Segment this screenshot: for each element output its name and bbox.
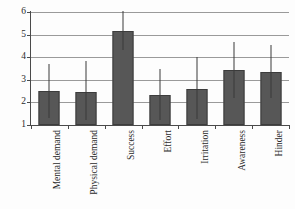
x-tick xyxy=(215,125,216,129)
x-tick xyxy=(105,125,106,129)
y-tick-label-2: 2 xyxy=(14,97,26,107)
error-bar xyxy=(233,42,234,98)
x-tick xyxy=(68,125,69,129)
x-tick xyxy=(142,125,143,129)
x-tick xyxy=(31,125,32,129)
error-bar xyxy=(270,45,271,99)
x-axis-line xyxy=(30,125,289,126)
y-tick-label-4: 4 xyxy=(14,52,26,62)
error-bar xyxy=(123,11,124,51)
y-tick-label-6: 6 xyxy=(14,7,26,17)
y-tick-label-1: 1 xyxy=(14,120,26,130)
error-bar xyxy=(159,69,160,120)
category-label: Awareness xyxy=(238,130,248,171)
category-label: Hinder xyxy=(275,130,285,156)
bar-slot xyxy=(215,12,252,125)
bar-slot xyxy=(68,12,105,125)
bar-slot xyxy=(178,12,215,125)
bar-chart-figure: 123456 Mental demandPhysical demandSucce… xyxy=(0,0,295,209)
error-bar xyxy=(86,61,87,121)
bar-slot xyxy=(31,12,68,125)
category-label: Success xyxy=(127,130,137,160)
x-tick xyxy=(178,125,179,129)
bar-slot xyxy=(105,12,142,125)
category-label: Effort xyxy=(164,130,174,153)
category-label: Mental demand xyxy=(53,130,63,189)
error-bar xyxy=(196,57,197,119)
category-label: Physical demand xyxy=(90,130,100,195)
bar-slot xyxy=(142,12,179,125)
bar-slot xyxy=(252,12,289,125)
x-tick xyxy=(289,125,290,129)
category-label: Irritation xyxy=(201,130,211,164)
plot-area xyxy=(31,12,289,125)
y-tick-label-5: 5 xyxy=(14,30,26,40)
y-tick-label-3: 3 xyxy=(14,75,26,85)
error-bar xyxy=(49,64,50,117)
x-tick xyxy=(252,125,253,129)
